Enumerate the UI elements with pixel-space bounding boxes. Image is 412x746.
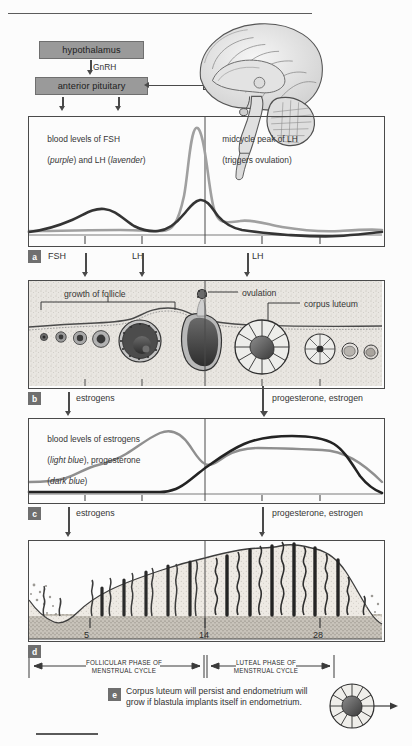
follicular-phase-line2: MENSTRUAL CYCLE: [92, 667, 156, 674]
pituitary-detail-box: [203, 69, 229, 90]
luteal-phase-line1: LUTEAL PHASE OF: [236, 659, 296, 666]
follicular-phase-label: FOLLICULAR PHASE OF MENSTRUAL CYCLE: [72, 659, 176, 674]
footnote-tag: e: [108, 688, 121, 701]
panel-a-legend-italic-lavender: lavender: [111, 155, 143, 165]
figure-root: hypothalamus GnRH anterior pituitary: [0, 0, 412, 746]
label-ovulation: ovulation: [242, 288, 276, 298]
follicular-phase-line1: FOLLICULAR PHASE OF: [86, 659, 162, 666]
day-tick-5: 5: [84, 630, 89, 640]
panel-a-annotation-line1: midcycle peak of LH: [222, 134, 297, 144]
label-progesterone-estrogen-b: progesterone, estrogen: [272, 393, 363, 403]
label-lh-2: LH: [252, 251, 264, 261]
anterior-pituitary-box: anterior pituitary: [35, 77, 148, 95]
panel-c-legend-italic-dark: dark blue: [50, 476, 84, 486]
day-tick-14: 14: [199, 630, 209, 640]
label-corpus-luteum: corpus luteum: [304, 299, 358, 309]
footnote-line1: Corpus luteum will persist and endometri…: [126, 686, 308, 696]
label-fsh: FSH: [48, 251, 66, 261]
day-tick-28: 28: [313, 630, 323, 640]
hypothalamus-box: hypothalamus: [39, 41, 144, 59]
footnote-text: Corpus luteum will persist and endometri…: [126, 686, 322, 708]
bottom-divider-rule: [36, 733, 98, 735]
panel-a-legend: blood levels of FSH (purple) and LH (lav…: [38, 124, 146, 176]
pituitary-callout-arrowhead: [144, 82, 149, 88]
luteal-phase-label: LUTEAL PHASE OF MENSTRUAL CYCLE: [228, 659, 304, 674]
panel-a-legend-mid: ) and LH (: [73, 155, 110, 165]
panel-a-tag: a: [28, 250, 41, 263]
panel-a-annotation: midcycle peak of LH (triggers ovulation): [213, 124, 298, 176]
label-estrogens-b: estrogens: [76, 393, 115, 403]
footnote-line2: grow if blastula implants itself in endo…: [126, 697, 302, 707]
panel-c-legend-mid: ), progesterone: [84, 455, 141, 465]
panel-c-legend: blood levels of estrogens (light blue), …: [38, 424, 140, 497]
panel-a-legend-line1: blood levels of FSH: [47, 134, 120, 144]
gnrh-label: GnRH: [93, 62, 116, 72]
panel-b-tag: b: [28, 392, 41, 405]
panel-d-endometrium: [28, 540, 385, 642]
label-growth-of-follicle: growth of follicle: [64, 289, 126, 299]
label-progesterone-estrogen-c: progesterone, estrogen: [272, 508, 363, 518]
pituitary-callout-line: [147, 85, 204, 86]
luteal-phase-line2: MENSTRUAL CYCLE: [234, 667, 298, 674]
panel-c-legend-line1: blood levels of estrogens: [47, 434, 140, 444]
label-estrogens-c: estrogens: [76, 508, 115, 518]
panel-d-tag: d: [28, 645, 41, 658]
panel-a-legend-italic-purple: purple: [50, 155, 73, 165]
panel-a-annotation-line2: (triggers ovulation): [222, 155, 291, 165]
panel-c-legend-italic-light: light blue: [50, 455, 84, 465]
panel-c-tag: c: [28, 507, 41, 520]
top-divider-rule: [8, 13, 312, 14]
